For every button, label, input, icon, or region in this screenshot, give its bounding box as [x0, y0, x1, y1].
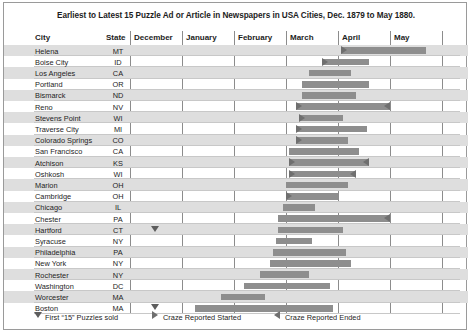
triangle-right-icon — [299, 114, 305, 122]
gantt-row[interactable]: PhiladelphiaPA — [4, 247, 468, 258]
column-header-month-december: December — [134, 33, 173, 42]
column-header-month-january: January — [186, 33, 217, 42]
timeline-bar[interactable] — [341, 47, 427, 54]
legend-label: Craze Reported Started — [163, 313, 241, 322]
city-label: Portland — [35, 80, 63, 89]
gantt-row[interactable]: WorcesterMA — [4, 291, 468, 302]
gantt-row[interactable]: New YorkNY — [4, 258, 468, 269]
triangle-left-icon — [384, 214, 390, 222]
state-label: DC — [108, 282, 128, 291]
timeline-bar[interactable] — [296, 126, 366, 133]
gantt-row[interactable]: OshkoshWI — [4, 168, 468, 179]
gantt-plot-area: CityStateDecemberJanuaryFebruaryMarchApr… — [4, 31, 468, 303]
state-label: CO — [108, 136, 128, 145]
city-label: Bismarck — [35, 91, 65, 100]
state-label: NV — [108, 103, 128, 112]
gantt-row[interactable]: San FranciscoCA — [4, 146, 468, 157]
timeline-bar[interactable] — [296, 103, 390, 110]
timeline-bar[interactable] — [289, 148, 359, 155]
city-label: Traverse City — [35, 125, 79, 134]
timeline-bar[interactable] — [289, 171, 357, 178]
city-label: Hartford — [35, 226, 62, 235]
state-label: WI — [108, 170, 128, 179]
triangle-right-icon — [341, 46, 347, 54]
timeline-bar[interactable] — [276, 238, 312, 245]
timeline-bar[interactable] — [299, 115, 343, 122]
state-label: ND — [108, 91, 128, 100]
triangle-right-icon — [322, 58, 328, 66]
timeline-bar[interactable] — [244, 283, 330, 290]
city-label: Oshkosh — [35, 170, 64, 179]
gantt-row[interactable]: AtchisonKS — [4, 157, 468, 168]
legend-label: Craze Reported Ended — [285, 313, 361, 322]
state-label: MA — [108, 293, 128, 302]
legend-item: First “15” Puzzles sold — [34, 311, 118, 322]
gantt-row[interactable]: MarionOH — [4, 179, 468, 190]
triangle-right-icon — [286, 192, 292, 200]
state-label: WI — [108, 114, 128, 123]
column-header-month-february: February — [238, 33, 272, 42]
gantt-row[interactable]: RochesterNY — [4, 269, 468, 280]
gantt-row[interactable]: BismarckND — [4, 90, 468, 101]
state-label: NY — [108, 237, 128, 246]
timeline-bar[interactable] — [286, 182, 348, 189]
state-label: CA — [108, 147, 128, 156]
timeline-bar[interactable] — [283, 204, 314, 211]
timeline-bar[interactable] — [289, 159, 370, 166]
column-header-row: CityStateDecemberJanuaryFebruaryMarchApr… — [4, 31, 468, 46]
state-label: MI — [108, 125, 128, 134]
timeline-bar[interactable] — [278, 227, 343, 234]
city-label: Rochester — [35, 271, 69, 280]
gantt-row[interactable]: PortlandOR — [4, 79, 468, 90]
gantt-row[interactable]: Colorado SpringsCO — [4, 135, 468, 146]
gantt-row[interactable]: CambridgeOH — [4, 191, 468, 202]
timeline-bar[interactable] — [302, 81, 370, 88]
legend-label: First “15” Puzzles sold — [45, 313, 118, 322]
gantt-row[interactable]: HelenaMT — [4, 45, 468, 56]
state-label: PA — [108, 215, 128, 224]
gantt-row[interactable]: Los AngelesCA — [4, 67, 468, 78]
state-label: IL — [108, 203, 128, 212]
triangle-left-icon — [274, 311, 285, 321]
chart-frame: Earliest to Latest 15 Puzzle Ad or Artic… — [3, 2, 467, 330]
gantt-row[interactable]: SyracuseNY — [4, 235, 468, 246]
city-label: San Francisco — [35, 147, 82, 156]
state-label: CT — [108, 226, 128, 235]
state-label: OH — [108, 181, 128, 190]
legend-item: Craze Reported Started — [152, 311, 241, 322]
timeline-bar[interactable] — [286, 193, 338, 200]
timeline-bar[interactable] — [221, 294, 265, 301]
city-label: New York — [35, 259, 66, 268]
timeline-bar[interactable] — [270, 260, 351, 267]
timeline-bar[interactable] — [296, 137, 348, 144]
city-label: Boise City — [35, 58, 68, 67]
timeline-bar[interactable] — [278, 215, 390, 222]
timeline-bar[interactable] — [260, 271, 309, 278]
timeline-bar[interactable] — [309, 70, 351, 77]
city-label: Chicago — [35, 203, 62, 212]
city-label: Colorado Springs — [35, 136, 92, 145]
city-label: Los Angeles — [35, 69, 75, 78]
gantt-row[interactable]: ChesterPA — [4, 213, 468, 224]
gantt-row[interactable]: Boise CityID — [4, 56, 468, 67]
gantt-row[interactable]: Traverse CityMI — [4, 123, 468, 134]
state-label: OH — [108, 192, 128, 201]
gantt-row[interactable]: ChicagoIL — [4, 202, 468, 213]
triangle-left-icon — [384, 102, 390, 110]
city-label: Marion — [35, 181, 58, 190]
gantt-row[interactable]: WashingtonDC — [4, 280, 468, 291]
city-label: Chester — [35, 215, 61, 224]
gantt-row[interactable]: HartfordCT — [4, 224, 468, 235]
city-label: Reno — [35, 103, 53, 112]
triangle-down-icon — [151, 304, 159, 310]
column-header-state: State — [106, 33, 126, 42]
gantt-row[interactable]: RenoNV — [4, 101, 468, 112]
timeline-bar[interactable] — [273, 249, 346, 256]
timeline-bar[interactable] — [322, 59, 369, 66]
triangle-down-icon — [151, 226, 159, 232]
timeline-bar[interactable] — [302, 92, 357, 99]
city-label: Cambridge — [35, 192, 71, 201]
city-label: Stevens Point — [35, 114, 81, 123]
state-label: ID — [108, 58, 128, 67]
gantt-row[interactable]: Stevens PointWI — [4, 112, 468, 123]
